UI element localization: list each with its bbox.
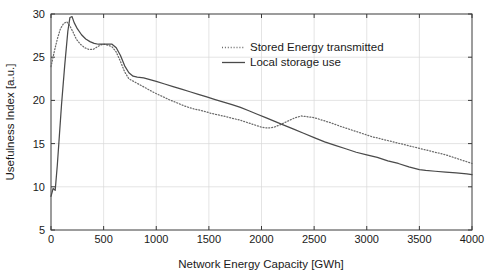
chart-canvas: 0500100015002000250030003500400051015202… (0, 0, 497, 277)
x-tick-label: 4000 (460, 233, 484, 245)
x-tick-label: 2500 (302, 233, 326, 245)
y-tick-label: 5 (39, 224, 45, 236)
x-tick-label: 1000 (144, 233, 168, 245)
legend-label-stored-energy-transmitted: Stored Energy transmitted (250, 41, 384, 53)
legend-label-local-storage-use: Local storage use (250, 56, 341, 68)
x-tick-label: 2000 (249, 233, 273, 245)
y-tick-label: 20 (33, 94, 45, 106)
x-tick-label: 1500 (197, 233, 221, 245)
x-axis-title: Network Energy Capacity [GWh] (178, 258, 344, 270)
y-tick-label: 10 (33, 181, 45, 193)
x-tick-label: 0 (48, 233, 54, 245)
chart-legend: Stored Energy transmitted Local storage … (222, 41, 384, 68)
y-axis-title: Usefulness Index [a.u.] (4, 64, 16, 181)
x-tick-label: 3500 (407, 233, 431, 245)
y-tick-label: 15 (33, 138, 45, 150)
x-tick-label: 3000 (355, 233, 379, 245)
chart-figure: 0500100015002000250030003500400051015202… (0, 0, 497, 277)
y-tick-label: 30 (33, 8, 45, 20)
y-tick-label: 25 (33, 51, 45, 63)
x-tick-label: 500 (94, 233, 112, 245)
